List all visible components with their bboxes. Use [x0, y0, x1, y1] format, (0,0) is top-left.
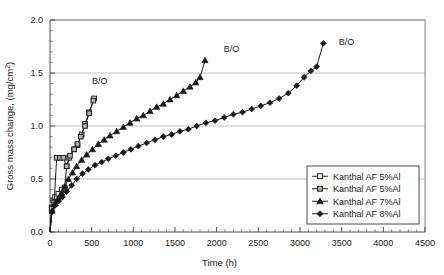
marker-gray-square	[72, 147, 77, 152]
x-tick-label-3500: 3500	[332, 238, 352, 248]
legend-label-1: Kanthal AF 5%Al	[333, 184, 401, 194]
y-tick-label-1: 1.0	[30, 121, 43, 131]
marker-filled-triangle	[114, 128, 120, 134]
marker-filled-triangle	[127, 120, 133, 126]
chart-figure: 050010001500200025003000350040004500 0.0…	[0, 0, 444, 275]
marker-gray-square	[87, 111, 92, 116]
chart-legend[interactable]: Kanthal AF 5%AlKanthal AF 5%AlKanthal AF…	[307, 166, 419, 224]
marker-filled-triangle	[197, 74, 203, 80]
y-tick-label-0: 0.0	[30, 227, 43, 237]
chart-svg: 050010001500200025003000350040004500 0.0…	[0, 0, 444, 275]
marker-filled-diamond	[185, 126, 191, 132]
marker-filled-diamond	[135, 143, 141, 149]
x-tick-label-2000: 2000	[207, 238, 227, 248]
series-2	[49, 57, 208, 232]
marker-filled-triangle	[134, 115, 140, 121]
marker-filled-triangle	[174, 92, 180, 98]
marker-gray-square	[79, 134, 84, 139]
marker-gray-square	[64, 164, 69, 169]
marker-filled-triangle	[202, 57, 208, 63]
marker-gray-square	[61, 156, 66, 161]
data-series-layer	[49, 40, 326, 232]
marker-filled-triangle	[69, 170, 75, 176]
y-axis-tick-labels: 0.00.51.01.52.0	[30, 15, 43, 237]
marker-filled-triangle	[107, 132, 113, 138]
x-tick-label-500: 500	[84, 238, 99, 248]
marker-filled-diamond	[267, 100, 273, 106]
x-tick-label-3000: 3000	[290, 238, 310, 248]
legend-label-0: Kanthal AF 5%Al	[333, 172, 401, 182]
marker-filled-diamond	[152, 137, 158, 143]
x-tick-label-4000: 4000	[373, 238, 393, 248]
annotation-bo-1: B/O	[224, 44, 240, 54]
marker-filled-diamond	[92, 162, 98, 168]
y-tick-label-2: 2.0	[30, 15, 43, 25]
marker-filled-diamond	[230, 111, 236, 117]
marker-filled-triangle	[101, 137, 107, 143]
marker-filled-triangle	[187, 84, 193, 90]
marker-filled-triangle	[160, 101, 166, 107]
marker-filled-triangle	[167, 96, 173, 102]
annotation-bo-0: B/O	[92, 76, 108, 86]
series-line-2	[50, 60, 205, 232]
y-axis-title: Gross mass change, (mg/cm2)	[4, 62, 15, 191]
x-tick-label-1000: 1000	[123, 238, 143, 248]
x-tick-label-2500: 2500	[248, 238, 268, 248]
marker-filled-diamond	[221, 115, 227, 121]
series-line-1	[50, 101, 93, 232]
y-tick-label-1.5: 1.5	[30, 68, 43, 78]
marker-filled-triangle	[154, 104, 160, 110]
marker-filled-diamond	[120, 150, 126, 156]
series-line-3	[50, 43, 323, 232]
marker-open-square	[318, 174, 323, 179]
series-1	[49, 98, 95, 232]
annotation-bo-2: B/O	[339, 37, 355, 47]
y-tick-label-0.5: 0.5	[30, 174, 43, 184]
marker-filled-diamond	[160, 134, 166, 140]
marker-filled-triangle	[120, 124, 126, 130]
marker-gray-square	[68, 153, 73, 158]
marker-gray-square	[91, 98, 96, 103]
x-axis-title: Time (h)	[202, 257, 237, 268]
marker-filled-diamond	[249, 106, 255, 112]
marker-filled-triangle	[180, 88, 186, 94]
marker-filled-triangle	[147, 108, 153, 114]
marker-filled-diamond	[258, 103, 264, 109]
marker-filled-diamond	[240, 109, 246, 115]
x-tick-label-4500: 4500	[415, 238, 435, 248]
marker-filled-diamond	[128, 146, 134, 152]
marker-filled-triangle	[140, 112, 146, 118]
x-axis-ticks	[50, 227, 425, 232]
annotations-layer: B/OB/OB/O	[92, 37, 354, 86]
marker-filled-diamond	[169, 132, 175, 138]
marker-gray-square	[75, 142, 80, 147]
marker-filled-diamond	[105, 156, 111, 162]
x-tick-label-1500: 1500	[165, 238, 185, 248]
legend-label-2: Kanthal AF 7%Al	[333, 197, 401, 207]
marker-filled-diamond	[99, 159, 105, 165]
marker-gray-square	[83, 124, 88, 129]
marker-filled-triangle	[95, 141, 101, 147]
x-axis-tick-labels: 050010001500200025003000350040004500	[47, 238, 435, 248]
marker-filled-diamond	[144, 140, 150, 146]
marker-filled-diamond	[320, 40, 326, 46]
marker-filled-diamond	[276, 96, 282, 102]
marker-filled-diamond	[203, 120, 209, 126]
marker-filled-diamond	[177, 128, 183, 134]
marker-gray-square	[318, 186, 323, 191]
series-3	[49, 40, 326, 232]
marker-filled-diamond	[113, 153, 119, 159]
x-tick-label-0: 0	[47, 238, 52, 248]
legend-label-3: Kanthal AF 8%Al	[333, 209, 401, 219]
marker-filled-diamond	[212, 118, 218, 124]
marker-filled-diamond	[194, 123, 200, 129]
